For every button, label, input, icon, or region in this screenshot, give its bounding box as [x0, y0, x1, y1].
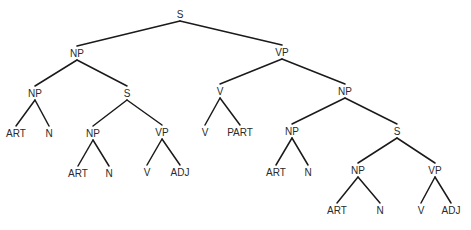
tree-edge — [358, 138, 397, 163]
tree-edge — [345, 98, 397, 124]
tree-node-np: NP — [351, 165, 365, 176]
tree-node-art: ART — [266, 167, 286, 178]
tree-node-np: NP — [70, 48, 84, 59]
tree-node-np: NP — [86, 128, 100, 139]
tree-node-np: NP — [338, 86, 352, 97]
tree-node-vp: VP — [155, 127, 169, 138]
tree-edge — [205, 98, 220, 125]
tree-edge — [127, 100, 162, 125]
tree-edge — [77, 21, 180, 46]
tree-node-art: ART — [68, 168, 88, 179]
tree-edge — [35, 60, 77, 86]
tree-node-np: NP — [28, 88, 42, 99]
tree-node-vp: VP — [275, 47, 289, 58]
tree-edge — [282, 59, 345, 84]
tree-edge — [435, 177, 451, 203]
tree-node-n: N — [105, 168, 112, 179]
tree-node-adj: ADJ — [442, 205, 461, 216]
tree-node-n: N — [376, 205, 383, 216]
tree-edge — [147, 139, 162, 165]
tree-edge — [16, 100, 35, 126]
tree-node-vp: VP — [428, 165, 442, 176]
tree-edge — [337, 177, 358, 203]
tree-node-v: V — [144, 167, 151, 178]
tree-node-n: N — [304, 167, 311, 178]
tree-node-s: S — [124, 88, 131, 99]
tree-node-np: NP — [285, 126, 299, 137]
tree-node-art: ART — [327, 205, 347, 216]
tree-edge — [180, 21, 282, 45]
tree-edge — [77, 60, 127, 86]
tree-node-s: S — [177, 9, 184, 20]
tree-edge — [276, 138, 292, 165]
tree-nodes: SNPVPNPSARTNNPVPARTNVADJVVPARTNPNPARTNSN… — [6, 9, 460, 216]
tree-edge — [292, 98, 345, 124]
tree-edge — [93, 100, 127, 126]
tree-edge — [358, 177, 380, 203]
tree-node-v: V — [217, 86, 224, 97]
tree-edge — [292, 138, 308, 165]
tree-edge — [421, 177, 435, 203]
tree-node-n: N — [45, 128, 52, 139]
tree-node-adj: ADJ — [171, 167, 190, 178]
parse-tree-diagram: SNPVPNPSARTNNPVPARTNVADJVVPARTNPNPARTNSN… — [0, 0, 471, 230]
tree-node-part: PART — [227, 127, 253, 138]
tree-node-art: ART — [6, 128, 26, 139]
tree-edge — [35, 100, 49, 126]
tree-edge — [93, 140, 109, 166]
tree-node-s: S — [394, 126, 401, 137]
tree-node-v: V — [418, 205, 425, 216]
tree-edge — [220, 98, 240, 125]
tree-node-v: V — [202, 127, 209, 138]
tree-edge — [162, 139, 180, 165]
tree-edge — [397, 138, 435, 163]
tree-edge — [220, 59, 282, 84]
tree-edge — [78, 140, 93, 166]
